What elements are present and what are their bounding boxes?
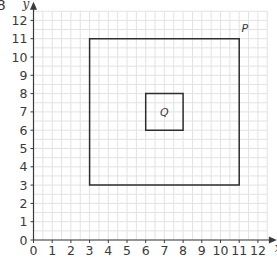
x-tick-label: 5 (123, 243, 131, 257)
y-tick-label: 4 (20, 159, 28, 174)
coordinate-grid: x y 01234567891011120123456789101112 PQ (0, 0, 277, 257)
shape-label-q: Q (160, 106, 169, 119)
y-tick-label: 8 (20, 86, 28, 101)
y-tick-label: 10 (12, 50, 28, 65)
x-tick-label: 3 (86, 243, 94, 257)
shapes: PQ (90, 22, 249, 185)
y-tick-label: 6 (20, 123, 28, 138)
y-axis-arrow-icon (30, 2, 37, 10)
y-axis-label: y (22, 0, 30, 11)
x-tick-label: 11 (231, 243, 247, 257)
ticks: 01234567891011120123456789101112 (12, 13, 266, 257)
x-tick-label: 6 (142, 243, 150, 257)
x-tick-label: 4 (104, 243, 112, 257)
x-tick-label: 12 (250, 243, 266, 257)
x-tick-label: 2 (67, 243, 75, 257)
y-tick-label: 5 (20, 141, 28, 156)
y-tick-label: 7 (20, 104, 28, 119)
x-tick-label: 9 (198, 243, 206, 257)
grid-lines (34, 11, 268, 240)
y-tick-label: 9 (20, 68, 28, 83)
x-tick-label: 1 (48, 243, 56, 257)
y-tick-label: 3 (20, 178, 28, 193)
x-tick-label: 7 (160, 243, 168, 257)
y-tick-label: 11 (12, 31, 28, 46)
y-tick-label: 1 (20, 214, 28, 229)
x-tick-label: 8 (179, 243, 187, 257)
shape-label-p: P (241, 22, 248, 35)
x-tick-label: 10 (213, 243, 229, 257)
y-tick-label: 12 (12, 13, 28, 28)
x-tick-label: 0 (30, 243, 38, 257)
x-axis-label: x (275, 241, 277, 255)
y-tick-label: 0 (20, 233, 28, 248)
y-tick-label: 2 (20, 196, 28, 211)
